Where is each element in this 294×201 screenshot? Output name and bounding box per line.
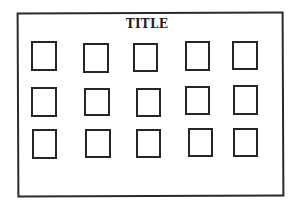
page-title: TITLE [0, 17, 294, 31]
placeholder-box-r1-c1 [31, 41, 57, 71]
placeholder-box-r3-c4 [188, 128, 213, 157]
placeholder-box-r3-c1 [32, 129, 57, 159]
placeholder-box-r3-c5 [233, 128, 258, 157]
placeholder-box-r3-c3 [136, 129, 161, 158]
placeholder-box-r1-c3 [133, 43, 158, 72]
placeholder-box-r3-c2 [85, 129, 111, 158]
placeholder-box-r1-c4 [185, 41, 210, 71]
placeholder-box-r2-c5 [233, 85, 258, 115]
placeholder-box-r2-c4 [185, 86, 210, 115]
placeholder-box-r1-c2 [83, 43, 109, 73]
placeholder-box-r2-c3 [136, 88, 161, 117]
placeholder-box-r1-c5 [232, 41, 258, 70]
placeholder-box-r2-c2 [84, 88, 110, 116]
placeholder-box-r2-c1 [31, 87, 57, 117]
